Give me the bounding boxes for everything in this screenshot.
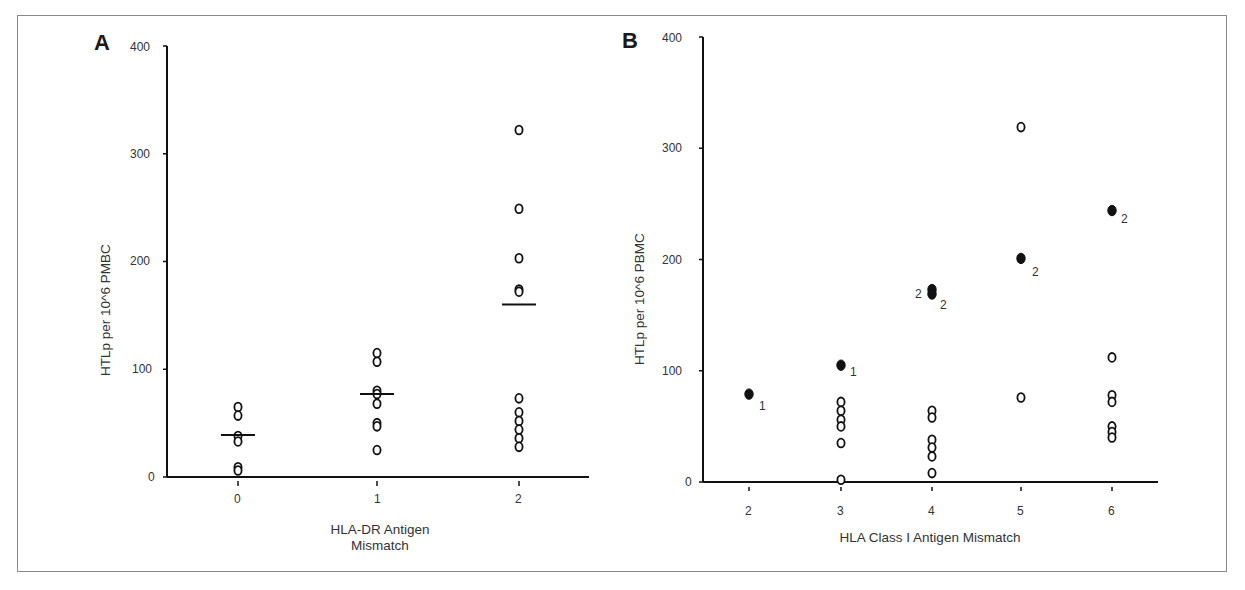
- a-data-point: [373, 422, 380, 431]
- a-data-point: [515, 408, 522, 417]
- b-filled-point: [745, 389, 753, 399]
- a-data-point: [515, 287, 522, 296]
- a-data-point: [373, 357, 380, 366]
- a-data-point: [515, 204, 522, 213]
- b-open-point: [928, 413, 935, 422]
- a-data-point: [515, 126, 522, 135]
- b-open-point: [928, 452, 935, 461]
- a-data-point: [373, 399, 380, 408]
- a-data-point: [515, 254, 522, 263]
- b-open-point: [837, 422, 844, 431]
- a-data-point: [234, 403, 241, 412]
- a-data-point: [373, 446, 380, 455]
- b-open-point: [1108, 353, 1115, 362]
- a-data-point: [515, 425, 522, 434]
- a-data-point: [515, 417, 522, 426]
- b-open-point: [928, 469, 935, 478]
- b-open-point: [1108, 398, 1115, 407]
- b-filled-point: [837, 360, 845, 370]
- a-data-point: [373, 349, 380, 358]
- a-data-point: [515, 434, 522, 443]
- b-open-point: [1017, 393, 1024, 402]
- b-open-point: [837, 439, 844, 448]
- a-data-point: [234, 411, 241, 420]
- b-filled-point: [928, 289, 936, 299]
- a-data-point: [234, 466, 241, 475]
- a-data-point: [515, 394, 522, 403]
- b-filled-point: [1108, 205, 1116, 215]
- plot-canvas: [0, 0, 1245, 590]
- a-data-point: [515, 442, 522, 451]
- b-open-point: [1108, 433, 1115, 442]
- b-open-point: [1017, 123, 1024, 132]
- b-open-point: [837, 398, 844, 407]
- b-open-point: [837, 406, 844, 415]
- a-data-point: [234, 437, 241, 446]
- b-filled-point: [1017, 253, 1025, 263]
- b-open-point: [928, 443, 935, 452]
- b-open-point: [837, 475, 844, 484]
